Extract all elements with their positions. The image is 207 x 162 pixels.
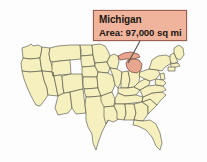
state-new-mexico — [70, 89, 86, 114]
state-wyoming — [52, 60, 71, 76]
map-screenshot: Michigan Area: 97,000 sq mi — [0, 0, 207, 162]
state-connecticut-rhodeisland — [168, 67, 175, 71]
highlighted-state-group — [118, 52, 142, 73]
state-alabama — [124, 104, 136, 120]
state-shapes-group — [21, 44, 184, 150]
state-oregon — [21, 58, 42, 72]
state-north-dakota — [80, 45, 93, 56]
callout-title: Michigan — [99, 13, 183, 26]
state-new-jersey — [160, 73, 165, 80]
callout-detail: Area: 97,000 sq mi — [99, 26, 183, 39]
state-michigan-upper-peninsula — [118, 52, 140, 60]
state-maryland-delaware — [155, 79, 166, 86]
michigan-callout-box[interactable]: Michigan Area: 97,000 sq mi — [93, 10, 187, 41]
state-washington — [22, 44, 42, 59]
state-montana — [49, 45, 81, 62]
state-kansas — [83, 77, 98, 89]
state-south-dakota — [81, 55, 95, 67]
state-minnesota — [92, 44, 110, 63]
state-florida — [133, 120, 162, 150]
